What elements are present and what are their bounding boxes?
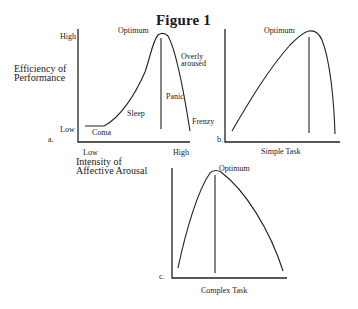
panel-b-x-axis-label: Simple Task bbox=[261, 148, 301, 156]
panel-a-overly-aroused-line2: aroused bbox=[181, 60, 206, 67]
panel-b-panel-label: b. bbox=[217, 136, 223, 144]
figure-title: Figure 1 bbox=[156, 13, 211, 28]
panel-c-panel-label: c. bbox=[159, 273, 165, 281]
panel-a-sleep-label: Sleep bbox=[127, 110, 145, 118]
panel-a-x-axis-label: Intensity of Affective Arousal bbox=[76, 157, 147, 175]
panel-a-y-low-label: Low bbox=[60, 126, 75, 134]
panel-a-y-axis-label-line2: Performance bbox=[14, 73, 66, 82]
panel-a-optimum-label: Optimum bbox=[118, 27, 149, 35]
panel-c-chart bbox=[172, 168, 287, 278]
panel-b-chart bbox=[225, 29, 340, 142]
panel-a-panic-label: Panic bbox=[166, 93, 184, 101]
panel-b-optimum-label: Optimum bbox=[264, 27, 295, 35]
panel-a-y-axis-label: Efficiency of Performance bbox=[14, 64, 66, 82]
panel-a-frenzy-label: Frenzy bbox=[192, 118, 214, 126]
panel-c-x-axis-label: Complex Task bbox=[201, 287, 247, 295]
panel-a-axes bbox=[78, 29, 190, 142]
panel-a-chart bbox=[78, 29, 190, 142]
panel-a-x-high-label: High bbox=[173, 149, 189, 157]
panel-c-optimum-label: Optimum bbox=[219, 165, 250, 173]
panel-a-x-axis-label-line2: Affective Arousal bbox=[76, 166, 147, 175]
panel-b-axes bbox=[225, 29, 340, 142]
panel-a-y-high-label: High bbox=[60, 33, 76, 41]
panel-b-curve bbox=[232, 31, 335, 134]
panel-a-coma-label: Coma bbox=[92, 129, 111, 137]
panel-a-panel-label: a. bbox=[48, 136, 54, 144]
panel-c-curve bbox=[178, 171, 283, 271]
panel-a-overly-aroused-label: Overly aroused bbox=[181, 53, 206, 67]
